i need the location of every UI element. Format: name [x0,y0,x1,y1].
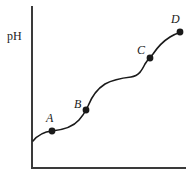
ph-curve-line [33,32,181,141]
data-point-label-b: B [74,98,81,110]
ph-curve-figure: pH A B C D [0,0,195,179]
data-point-a [49,128,56,135]
data-point-c [147,55,154,62]
y-axis-label: pH [7,30,22,42]
data-point-label-a: A [46,112,53,124]
data-point-label-d: D [171,13,180,25]
data-point-label-c: C [137,44,145,56]
plot-canvas [0,0,195,179]
data-point-d [177,29,184,36]
data-point-b [83,107,90,114]
